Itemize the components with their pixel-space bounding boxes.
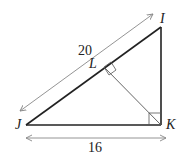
triangle-diagram	[0, 0, 187, 158]
altitude-kl	[104, 67, 161, 125]
vertex-label-l: L	[89, 57, 97, 71]
vertex-label-k: K	[166, 118, 175, 132]
measure-label-ji: 20	[78, 44, 92, 58]
vertex-label-j: J	[15, 118, 21, 132]
side-ji	[26, 27, 161, 125]
vertex-label-i: I	[160, 12, 165, 26]
measure-label-jk: 16	[88, 141, 102, 155]
